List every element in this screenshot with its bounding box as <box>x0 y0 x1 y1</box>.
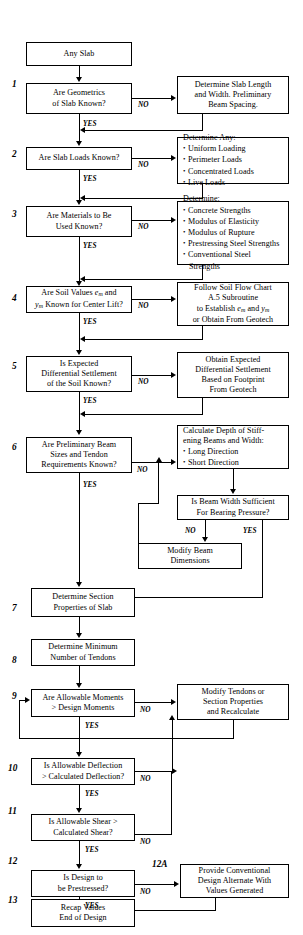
node-step-2-no-action[interactable]: Determine Any: Uniform Loading Perimeter… <box>177 137 289 184</box>
list-item: Short Direction <box>183 457 286 468</box>
arrowhead-5-no-return <box>80 411 85 417</box>
node-step-5[interactable]: Is Expected Differential Settlement of t… <box>26 356 132 392</box>
node-step-3-no-action[interactable]: Determine: Concrete Strengths Modulus of… <box>177 201 289 265</box>
node-step-2[interactable]: Are Slab Loads Known? <box>26 147 132 170</box>
step-number-9: 9 <box>12 692 17 701</box>
node-step-4[interactable]: Are Soil Values em and ym Known for Cent… <box>26 286 132 313</box>
node-step-6[interactable]: Are Preliminary Beam Sizes and Tendon Re… <box>26 437 132 473</box>
edge-6-no <box>132 462 172 463</box>
node-step-13-label: Recap Values End of Design <box>32 903 134 923</box>
edge-3-no-return-h <box>85 279 203 280</box>
arrowhead-10-no <box>172 768 177 774</box>
node-step-1-no-action-label: Determine Slab Length and Width. Prelimi… <box>178 80 288 111</box>
page-header-faint-text <box>150 2 300 9</box>
node-step-1-no-action[interactable]: Determine Slab Length and Width. Prelimi… <box>177 76 289 114</box>
arrowhead-5-no <box>171 372 176 378</box>
step-number-4: 4 <box>12 294 17 303</box>
edge-label-5-yes: YES <box>83 397 97 404</box>
node-any-slab-label: Any Slab <box>27 49 131 59</box>
edge-label-3-no: NO <box>138 223 149 230</box>
arrowhead-6-no <box>171 459 176 465</box>
edge-label-6-yes: YES <box>83 481 97 488</box>
arrowhead-7-to-8 <box>76 633 82 638</box>
arrowhead-8-to-9 <box>76 683 82 688</box>
arrowhead-10-no-up <box>169 715 175 720</box>
step-number-12a: 12A <box>152 860 168 869</box>
node-step-10-label: Is Allowable Deflection > Calculated Def… <box>32 761 134 781</box>
edge-1-no-return-v <box>202 114 203 131</box>
node-step-9-label: Are Allowable Moments > Design Moments <box>32 693 134 713</box>
step-number-7: 7 <box>12 604 17 613</box>
node-any-slab[interactable]: Any Slab <box>26 42 132 66</box>
node-step-6-no-title: Calculate Depth of Stiff- ening Beams an… <box>183 426 286 446</box>
node-step-5-label: Is Expected Differential Settlement of t… <box>27 359 131 390</box>
node-step-4-no-action-label: Follow Soil Flow Chart A.5 Subroutine to… <box>178 283 288 325</box>
edge-6b-yes-v <box>262 520 263 598</box>
arrowhead-6no-to-6b <box>230 489 236 494</box>
edge-5-no-return-v <box>202 398 203 415</box>
edge-label-3-yes: YES <box>83 242 97 249</box>
arrowhead-3-no <box>171 217 176 223</box>
node-step-6-modify-beam[interactable]: Modify Beam Dimensions <box>138 543 242 569</box>
node-step-12-label: Is Design to be Prestressed? <box>32 873 134 893</box>
edge-10-no-h <box>135 771 173 772</box>
node-step-1-label: Are Geometrics of Slab Known? <box>27 88 131 108</box>
arrowhead-1-no <box>171 95 176 101</box>
edge-10-no-up-v <box>172 720 173 772</box>
edge-9-no <box>135 702 172 703</box>
node-step-11[interactable]: Is Allowable Shear > Calculated Shear? <box>31 814 135 841</box>
node-step-2-no-title: Determine Any: <box>183 133 286 143</box>
arrowhead-4-no-return <box>80 336 85 342</box>
node-step-12a[interactable]: Provide Conventional Design Alternate Wi… <box>180 864 289 898</box>
edge-label-4-no: NO <box>138 302 149 309</box>
edge-label-2-yes: YES <box>83 175 97 182</box>
step-number-3: 3 <box>12 210 17 219</box>
node-step-9-no-action[interactable]: Modify Tendons or Section Properties and… <box>177 684 289 720</box>
arrowhead-11-yes <box>76 864 82 869</box>
node-step-9[interactable]: Are Allowable Moments > Design Moments <box>31 689 135 717</box>
node-step-8[interactable]: Determine Minimum Number of Tendons <box>31 639 135 666</box>
edge-6no-to-6b <box>233 469 234 490</box>
node-step-12a-label: Provide Conventional Design Alternate Wi… <box>181 866 288 897</box>
list-item: Modulus of Elasticity <box>183 216 286 227</box>
edge-9-modify-return-h <box>19 738 234 739</box>
edge-label-6-no: NO <box>137 466 148 473</box>
node-step-5-no-action[interactable]: Obtain Expected Differential Settlement … <box>177 352 289 398</box>
arrowhead-9-yes <box>76 752 82 757</box>
edge-11-yes <box>79 841 80 865</box>
edge-label-12-yes: YES <box>85 902 99 909</box>
node-step-1[interactable]: Are Geometrics of Slab Known? <box>26 83 132 114</box>
edge-10-yes <box>79 785 80 809</box>
node-step-4-no-action[interactable]: Follow Soil Flow Chart A.5 Subroutine to… <box>177 282 289 326</box>
arrowhead-6-yes <box>76 582 82 587</box>
step-number-5: 5 <box>12 362 17 371</box>
list-item: Uniform Loading <box>183 143 286 154</box>
edge-label-5-no: NO <box>138 378 149 385</box>
node-step-11-label: Is Allowable Shear > Calculated Shear? <box>32 817 134 837</box>
node-step-6-no-action[interactable]: Calculate Depth of Stiff- ening Beams an… <box>177 425 289 469</box>
arrowhead-5-yes <box>76 430 82 435</box>
edge-label-10-yes: YES <box>85 790 99 797</box>
edge-4-no-return-h <box>85 339 203 340</box>
arrowhead-start-to-1 <box>76 77 82 82</box>
arrowhead-4-no <box>171 296 176 302</box>
arrowhead-9-modify-return <box>25 697 30 703</box>
node-step-6-modify-beam-label: Modify Beam Dimensions <box>139 546 241 566</box>
node-step-12[interactable]: Is Design to be Prestressed? <box>31 870 135 897</box>
arrowhead-2-yes <box>76 200 82 205</box>
edge-label-2-no: NO <box>138 161 149 168</box>
node-step-4-no-line4: or Obtain From Geotech <box>193 315 273 324</box>
edge-label-10-no: NO <box>140 775 151 782</box>
node-step-3[interactable]: Are Materials to Be Used Known? <box>26 206 132 237</box>
edge-label-9-no: NO <box>140 706 151 713</box>
list-item: Live Loads <box>183 177 286 188</box>
node-step-10[interactable]: Is Allowable Deflection > Calculated Def… <box>31 758 135 785</box>
step-number-11: 11 <box>8 807 17 816</box>
node-step-3-no-title: Determine: <box>183 194 286 204</box>
edge-11-no-h <box>135 834 172 835</box>
node-step-6-beam-width-check[interactable]: Is Beam Width Sufficient For Bearing Pre… <box>177 495 289 520</box>
edge-8-to-9 <box>79 666 80 684</box>
node-step-13[interactable]: Recap Values End of Design <box>31 899 135 927</box>
arrowhead-1-yes <box>76 141 82 146</box>
node-step-7[interactable]: Determine Section Properties of Slab <box>31 588 135 617</box>
